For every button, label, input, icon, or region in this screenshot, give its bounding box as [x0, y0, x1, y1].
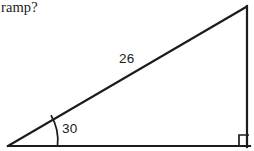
triangle-diagram: 26 30	[0, 0, 254, 151]
hypotenuse-length-label: 26	[119, 51, 134, 66]
angle-measure-label: 30	[62, 121, 77, 136]
triangle-hypotenuse-line	[8, 7, 246, 146]
geometry-figure: ramp? 26 30	[0, 0, 254, 151]
